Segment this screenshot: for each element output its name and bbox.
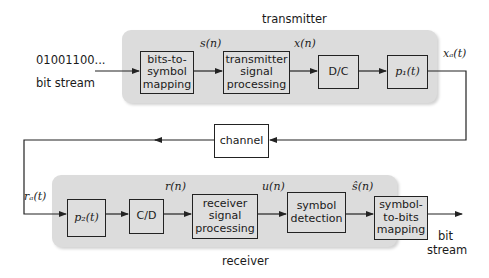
channel-block: channel xyxy=(214,124,269,158)
signal-r-n: r(n) xyxy=(165,180,186,193)
input-bits: 01001100... xyxy=(36,53,106,67)
p2-matched-filter-block: p₂(t) xyxy=(67,199,106,237)
signal-r-a-t: rₐ(t) xyxy=(24,190,46,203)
p1-pulse-filter-block: p₁(t) xyxy=(387,55,428,89)
receiver-signal-processing-block: receiversignalprocessing xyxy=(192,194,258,239)
signal-x-a-t: xₐ(t) xyxy=(443,47,466,60)
signal-s-hat-n: ŝ(n) xyxy=(352,180,373,193)
transmitter-signal-processing-block: transmittersignalprocessing xyxy=(223,51,290,94)
signal-u-n: u(n) xyxy=(262,180,285,193)
symbol-detection-block: symboldetection xyxy=(287,192,346,233)
symbol-to-bits-mapping-block: symbol-to-bitsmapping xyxy=(374,196,428,240)
input-bit-stream-label: bit stream xyxy=(36,76,95,90)
cd-converter-block: C/D xyxy=(129,199,164,234)
output-stream-label: stream xyxy=(427,243,467,257)
signal-x-n: x(n) xyxy=(294,37,316,50)
dc-converter-block: D/C xyxy=(318,55,359,89)
signal-s-n: s(n) xyxy=(200,37,221,50)
bits-to-symbol-mapping-block: bits-to-symbolmapping xyxy=(140,51,194,94)
output-bit-label: bit xyxy=(438,229,453,243)
